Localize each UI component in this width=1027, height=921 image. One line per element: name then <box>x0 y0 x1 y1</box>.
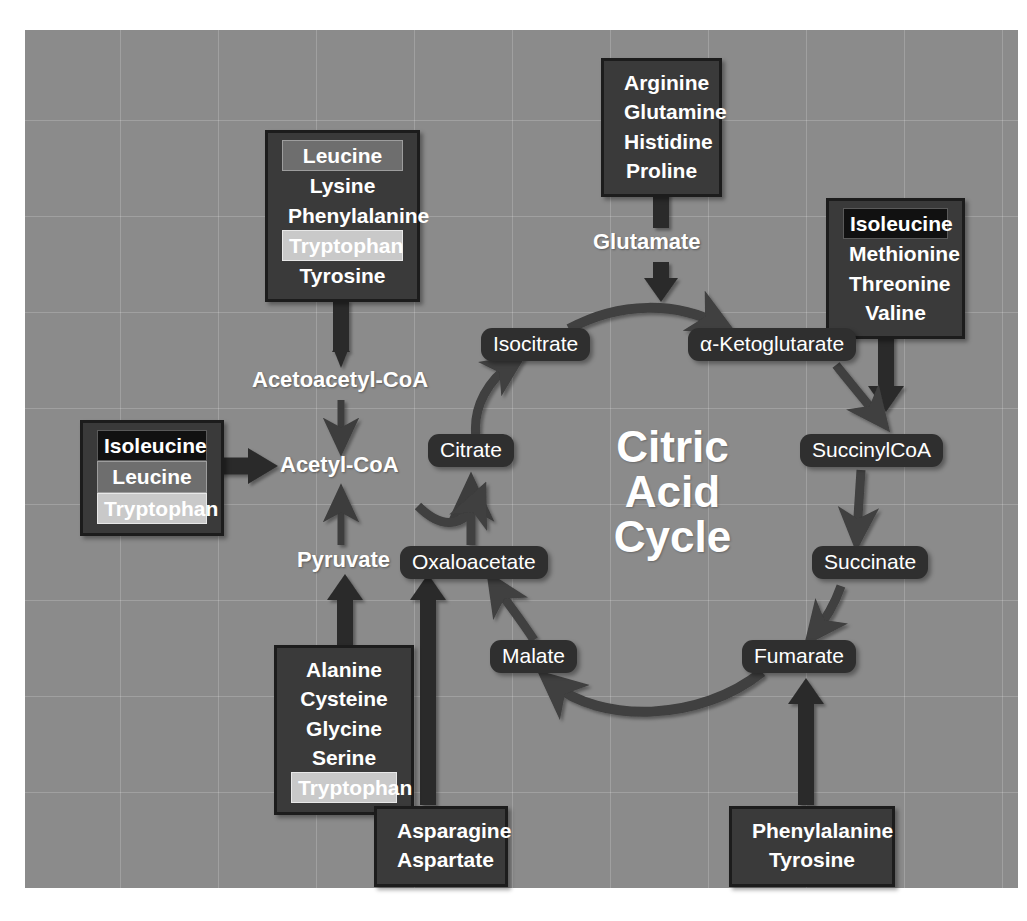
aa-item-glutamine: Glutamine <box>618 97 705 126</box>
cycle-title-line2: Acid <box>585 470 760 515</box>
pill-citrate[interactable]: Citrate <box>428 434 514 467</box>
pill-malate[interactable]: Malate <box>490 640 577 673</box>
aa-item-tryptophan: Tryptophan <box>97 493 207 524</box>
figure-root: Leucine Lysine Phenylalanine Tryptophan … <box>0 0 1027 921</box>
aa-item-methionine: Methionine <box>843 239 948 268</box>
aa-item-tyrosine: Tyrosine <box>282 261 403 290</box>
pill-succinate[interactable]: Succinate <box>812 546 928 579</box>
aa-item-valine: Valine <box>843 298 948 327</box>
amino-acid-box-glutamate[interactable]: Arginine Glutamine Histidine Proline <box>601 58 722 197</box>
aa-item-phenylalanine: Phenylalanine <box>746 816 878 845</box>
aa-item-aspartate: Aspartate <box>391 845 491 874</box>
aa-item-leucine: Leucine <box>97 461 207 492</box>
aa-item-lysine: Lysine <box>282 171 403 200</box>
amino-acid-box-acetoacetyl-coa[interactable]: Leucine Lysine Phenylalanine Tryptophan … <box>265 130 420 302</box>
aa-item-tryptophan: Tryptophan <box>291 772 397 803</box>
pill-alpha-ketoglutarate[interactable]: α-Ketoglutarate <box>688 328 856 361</box>
amino-acid-box-pyruvate[interactable]: Alanine Cysteine Glycine Serine Tryptoph… <box>274 645 414 815</box>
aa-item-leucine: Leucine <box>282 140 403 171</box>
pill-isocitrate[interactable]: Isocitrate <box>481 328 590 361</box>
amino-acid-box-acetyl-coa[interactable]: Isoleucine Leucine Tryptophan <box>80 420 224 536</box>
aa-item-cysteine: Cysteine <box>291 684 397 713</box>
label-acetyl-coa: Acetyl-CoA <box>280 452 399 478</box>
label-pyruvate: Pyruvate <box>297 547 390 573</box>
aa-item-arginine: Arginine <box>618 68 705 97</box>
aa-item-tryptophan: Tryptophan <box>282 230 403 261</box>
aa-item-tyrosine: Tyrosine <box>746 845 878 874</box>
cycle-title-line3: Cycle <box>585 515 760 560</box>
pill-fumarate[interactable]: Fumarate <box>742 640 856 673</box>
aa-item-proline: Proline <box>618 156 705 185</box>
aa-item-glycine: Glycine <box>291 714 397 743</box>
label-acetoacetyl-coa: Acetoacetyl-CoA <box>252 367 428 393</box>
aa-item-threonine: Threonine <box>843 269 948 298</box>
aa-item-asparagine: Asparagine <box>391 816 491 845</box>
aa-item-histidine: Histidine <box>618 127 705 156</box>
cycle-title-line1: Citric <box>585 425 760 470</box>
pill-oxaloacetate[interactable]: Oxaloacetate <box>400 546 548 579</box>
aa-item-phenylalanine: Phenylalanine <box>282 201 403 230</box>
label-glutamate: Glutamate <box>593 229 701 255</box>
aa-item-serine: Serine <box>291 743 397 772</box>
aa-item-isoleucine: Isoleucine <box>97 430 207 461</box>
pill-succinylcoa[interactable]: SuccinylCoA <box>800 434 943 467</box>
amino-acid-box-succinyl-coa[interactable]: Isoleucine Methionine Threonine Valine <box>826 198 965 339</box>
amino-acid-box-oxaloacetate[interactable]: Asparagine Aspartate <box>374 806 508 887</box>
cycle-title: Citric Acid Cycle <box>585 425 760 560</box>
aa-item-isoleucine: Isoleucine <box>843 208 948 239</box>
amino-acid-box-fumarate[interactable]: Phenylalanine Tyrosine <box>729 806 895 887</box>
aa-item-alanine: Alanine <box>291 655 397 684</box>
